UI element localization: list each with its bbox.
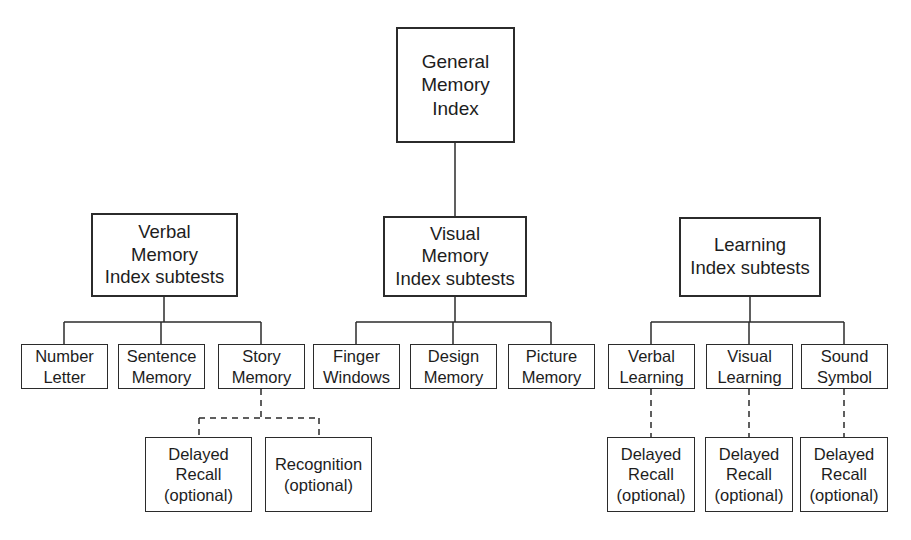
node-text-line: Verbal: [138, 221, 190, 244]
node-text-line: Recall: [726, 464, 772, 484]
node-text-line: Memory: [421, 73, 490, 96]
node-text-line: Learning: [717, 367, 781, 387]
node-sound-symbol-delayed-recall: DelayedRecall(optional): [800, 437, 888, 512]
node-text-line: Index subtests: [105, 266, 224, 289]
node-text-line: Symbol: [817, 367, 872, 387]
node-text-line: (optional): [715, 485, 784, 505]
node-visual-learning: VisualLearning: [706, 344, 793, 389]
node-verbal-learning-delayed-recall: DelayedRecall(optional): [607, 437, 695, 512]
node-text-line: Sound: [821, 346, 869, 366]
node-text-line: Finger: [333, 346, 380, 366]
node-text-line: Memory: [232, 367, 292, 387]
node-picture-memory: PictureMemory: [508, 344, 595, 389]
node-text-line: Delayed: [719, 444, 780, 464]
node-visual-learning-delayed-recall: DelayedRecall(optional): [705, 437, 793, 512]
node-learning-index: LearningIndex subtests: [679, 217, 821, 297]
node-text-line: Windows: [323, 367, 390, 387]
node-text-line: Recall: [176, 464, 222, 484]
node-text-line: Story: [242, 346, 281, 366]
node-text-line: General: [422, 50, 490, 73]
node-general-memory-index: GeneralMemoryIndex: [396, 27, 515, 143]
node-text-line: Recall: [821, 464, 867, 484]
node-text-line: (optional): [284, 475, 353, 495]
node-finger-windows: FingerWindows: [313, 344, 400, 389]
node-sentence-memory: SentenceMemory: [118, 344, 205, 389]
node-text-line: Verbal: [628, 346, 675, 366]
node-text-line: Picture: [526, 346, 577, 366]
node-visual-memory-index: VisualMemoryIndex subtests: [383, 216, 527, 297]
node-text-line: Memory: [422, 245, 489, 268]
node-story-delayed-recall: DelayedRecall(optional): [145, 437, 252, 512]
node-text-line: Delayed: [814, 444, 875, 464]
node-text-line: Learning: [714, 234, 786, 257]
node-text-line: Letter: [43, 367, 85, 387]
node-text-line: Index subtests: [395, 268, 514, 291]
node-verbal-learning: VerbalLearning: [608, 344, 695, 389]
node-text-line: Recognition: [275, 454, 362, 474]
node-number-letter: NumberLetter: [21, 344, 108, 389]
node-text-line: (optional): [164, 485, 233, 505]
node-text-line: Delayed: [168, 444, 229, 464]
node-text-line: Memory: [131, 244, 198, 267]
node-design-memory: DesignMemory: [410, 344, 497, 389]
node-text-line: Number: [35, 346, 94, 366]
node-sound-symbol: SoundSymbol: [801, 344, 888, 389]
node-text-line: Delayed: [621, 444, 682, 464]
node-text-line: Memory: [132, 367, 192, 387]
node-text-line: Sentence: [127, 346, 197, 366]
memory-index-hierarchy-diagram: GeneralMemoryIndex VerbalMemoryIndex sub…: [0, 0, 911, 540]
node-text-line: Visual: [430, 223, 480, 246]
node-verbal-memory-index: VerbalMemoryIndex subtests: [91, 213, 238, 297]
node-text-line: Index subtests: [690, 257, 809, 280]
node-text-line: Design: [428, 346, 479, 366]
node-text-line: Memory: [424, 367, 484, 387]
node-text-line: Memory: [522, 367, 582, 387]
node-text-line: Recall: [628, 464, 674, 484]
node-story-recognition: Recognition(optional): [265, 437, 372, 512]
node-story-memory: StoryMemory: [218, 344, 305, 389]
node-text-line: Visual: [727, 346, 772, 366]
node-text-line: (optional): [810, 485, 879, 505]
node-text-line: Index: [432, 97, 478, 120]
node-text-line: (optional): [617, 485, 686, 505]
node-text-line: Learning: [619, 367, 683, 387]
